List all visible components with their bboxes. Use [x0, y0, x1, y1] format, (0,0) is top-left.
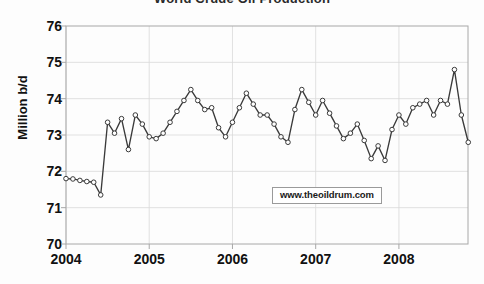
- data-point-marker: [438, 98, 443, 103]
- data-point-marker: [417, 102, 422, 107]
- data-point-marker: [459, 113, 464, 118]
- data-point-marker: [348, 131, 353, 136]
- data-point-marker: [154, 136, 159, 141]
- data-point-marker: [182, 98, 187, 103]
- data-point-marker: [126, 147, 131, 152]
- data-point-marker: [431, 113, 436, 118]
- data-point-marker: [293, 107, 298, 112]
- data-point-marker: [411, 105, 416, 110]
- data-point-marker: [272, 122, 277, 127]
- data-point-marker: [71, 177, 76, 182]
- data-point-marker: [286, 140, 291, 145]
- data-point-marker: [64, 176, 69, 181]
- data-point-marker: [279, 135, 284, 140]
- data-point-marker: [209, 105, 214, 110]
- data-point-marker: [327, 111, 332, 116]
- data-point-marker: [424, 98, 429, 103]
- data-point-marker: [320, 98, 325, 103]
- data-point-marker: [466, 140, 471, 145]
- data-point-marker: [230, 120, 235, 125]
- data-point-marker: [313, 113, 318, 118]
- data-point-marker: [133, 113, 138, 118]
- data-point-marker: [85, 179, 90, 184]
- data-point-marker: [404, 122, 409, 127]
- data-point-marker: [237, 105, 242, 110]
- data-point-marker: [362, 138, 367, 143]
- data-point-marker: [355, 122, 360, 127]
- data-point-marker: [98, 193, 103, 198]
- data-point-marker: [119, 116, 124, 121]
- data-point-marker: [265, 113, 270, 118]
- data-point-marker: [299, 87, 304, 92]
- data-point-marker: [376, 144, 381, 149]
- watermark-label: www.theoildrum.com: [272, 187, 382, 204]
- data-series-line: [66, 70, 468, 195]
- data-point-marker: [334, 124, 339, 129]
- data-point-marker: [341, 136, 346, 141]
- data-point-marker: [445, 102, 450, 107]
- gridlines: [66, 26, 468, 244]
- data-point-marker: [105, 120, 110, 125]
- data-point-marker: [216, 125, 221, 130]
- data-point-marker: [168, 120, 173, 125]
- data-point-marker: [452, 67, 457, 72]
- data-point-marker: [251, 102, 256, 107]
- data-point-marker: [390, 127, 395, 132]
- data-point-marker: [383, 158, 388, 163]
- data-point-marker: [161, 131, 166, 136]
- data-point-marker: [112, 131, 117, 136]
- data-point-marker: [244, 91, 249, 96]
- data-point-marker: [223, 135, 228, 140]
- data-point-marker: [189, 87, 194, 92]
- data-point-marker: [140, 122, 145, 127]
- plot-area: [0, 0, 484, 284]
- data-point-marker: [195, 98, 200, 103]
- data-point-marker: [91, 180, 96, 185]
- data-point-marker: [369, 156, 374, 161]
- data-point-marker: [258, 113, 263, 118]
- data-point-marker: [397, 113, 402, 118]
- data-point-marker: [147, 135, 152, 140]
- data-point-marker: [306, 100, 311, 105]
- chart-container: World Crude Oil Production Million b/d 7…: [0, 0, 484, 284]
- data-point-marker: [202, 107, 207, 112]
- axis-ticks: [61, 26, 399, 249]
- data-point-marker: [78, 178, 83, 183]
- data-point-marker: [175, 109, 180, 114]
